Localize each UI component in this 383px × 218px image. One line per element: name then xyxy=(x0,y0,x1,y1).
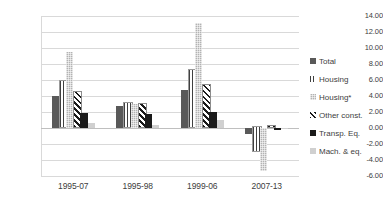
bar xyxy=(52,96,59,128)
y-tick-label: -6.00 xyxy=(345,172,383,180)
bar-chart: 14.0012.0010.008.006.004.002.000.00-2.00… xyxy=(0,0,383,218)
bar-group xyxy=(235,16,300,176)
bar xyxy=(116,106,123,128)
legend-label: Other const. xyxy=(319,111,363,120)
legend-swatch-icon xyxy=(310,94,316,100)
bar xyxy=(209,112,216,128)
legend-swatch-icon xyxy=(310,76,316,82)
legend-swatch-icon xyxy=(310,58,316,64)
bar xyxy=(66,52,73,128)
bar xyxy=(131,104,138,128)
x-tick-label: 1995-07 xyxy=(41,181,106,191)
bar-group xyxy=(41,16,106,176)
x-tick-label: 1995-98 xyxy=(106,181,171,191)
chart-legend: TotalHousingHousing*Other const.Transp. … xyxy=(310,52,383,160)
legend-label: Housing* xyxy=(319,93,351,102)
legend-label: Transp. Eq. xyxy=(319,129,360,138)
y-tick-label: 12.00 xyxy=(345,28,383,36)
legend-item[interactable]: Mach. & eq. xyxy=(310,142,383,160)
bar xyxy=(80,113,87,128)
bar-group xyxy=(170,16,235,176)
bar xyxy=(245,128,252,134)
bar xyxy=(195,23,202,128)
bar xyxy=(181,90,188,128)
legend-item[interactable]: Other const. xyxy=(310,106,383,124)
legend-item[interactable]: Total xyxy=(310,52,383,70)
legend-item[interactable]: Housing xyxy=(310,70,383,88)
legend-swatch-icon xyxy=(310,112,316,118)
bar xyxy=(217,120,224,128)
y-tick-label: 10.00 xyxy=(345,44,383,52)
legend-swatch-icon xyxy=(310,130,316,136)
legend-item[interactable]: Housing* xyxy=(310,88,383,106)
bar xyxy=(152,125,159,128)
legend-label: Housing xyxy=(319,75,348,84)
legend-item[interactable]: Transp. Eq. xyxy=(310,124,383,142)
bar-group xyxy=(106,16,171,176)
x-tick-label: 1999-06 xyxy=(170,181,235,191)
legend-label: Mach. & eq. xyxy=(319,147,362,156)
legend-label: Total xyxy=(319,57,336,66)
x-tick-label: 2007-13 xyxy=(235,181,300,191)
gridline xyxy=(41,176,299,177)
bar xyxy=(260,128,267,171)
bar xyxy=(274,128,281,130)
bar xyxy=(88,123,95,128)
y-tick-label: 14.00 xyxy=(345,12,383,20)
bar xyxy=(145,114,152,128)
plot-area xyxy=(41,16,299,176)
bar xyxy=(281,128,288,129)
legend-swatch-icon xyxy=(310,148,316,154)
